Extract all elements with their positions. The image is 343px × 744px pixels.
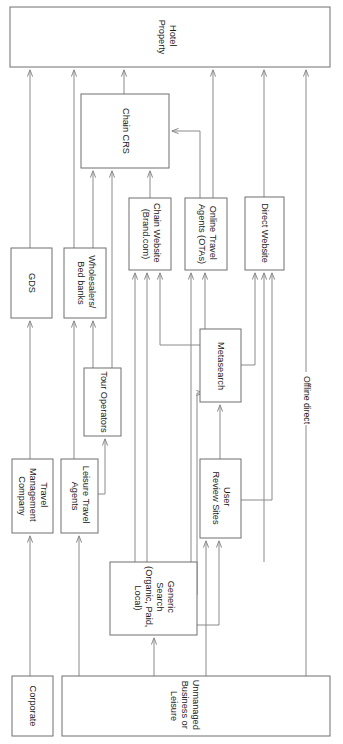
- node-generic-search-line-1: Search: [154, 582, 164, 611]
- node-user-review-line-1: Review Sites: [210, 471, 220, 525]
- node-chain-crs[interactable]: Chain CRS: [81, 94, 169, 168]
- svg-text:Chain CRS: Chain CRS: [121, 108, 131, 154]
- node-online-travel-agents-line-1: Agents (OTAs): [196, 204, 206, 264]
- flow-search-to-user-review: [197, 541, 219, 625]
- node-user-review-line-0: User: [221, 487, 231, 506]
- flow-lta-to-tour-operators: [98, 439, 105, 494]
- node-unmanaged-line-2: Leisure: [169, 691, 179, 721]
- distribution-flow-diagram: Hotel Property Chain CRS Chain Website (…: [0, 0, 343, 744]
- node-tour-operators[interactable]: Tour Operators: [84, 368, 121, 436]
- node-metasearch[interactable]: Metasearch: [200, 329, 241, 402]
- node-generic-search-line-0: Generic: [165, 581, 175, 614]
- node-gds-line-0: GDS: [27, 273, 37, 293]
- node-chain-website[interactable]: Chain Website (Brand.com): [129, 198, 171, 270]
- node-corporate-line-0: Corporate: [28, 686, 38, 727]
- svg-text:GDS: GDS: [27, 273, 37, 293]
- node-leisure-travel-agents[interactable]: Leisure Travel Agents: [61, 459, 98, 533]
- node-lta-line-1: Agents: [69, 482, 79, 511]
- svg-text:Chain Website (Brand.com: Chain Website (Brand.com): [140, 203, 161, 265]
- node-hotel-property[interactable]: Hotel Property: [10, 7, 330, 67]
- flow-otas-to-crs: [172, 131, 200, 198]
- flow-metasearch-to-chain-website: [160, 273, 200, 345]
- node-chain-website-line-1: (Brand.com): [140, 209, 150, 260]
- node-wholesalers-bed-banks[interactable]: Wholesalers/ Bed banks: [64, 248, 106, 318]
- node-travel-management-company[interactable]: Travel Management Company: [12, 459, 53, 533]
- node-tour-operators-line-0: Tour Operators: [99, 371, 109, 433]
- node-generic-search[interactable]: Generic Search (Organic, Paid, Local): [110, 562, 197, 635]
- node-unmanaged-line-1: Business or: [180, 681, 190, 729]
- node-online-travel-agents[interactable]: Online Travel Agents (OTAs): [185, 198, 227, 270]
- node-hotel-property-line-0: Hotel: [167, 25, 177, 46]
- node-direct-website[interactable]: Direct Website: [245, 197, 284, 270]
- node-chain-crs-line-0: Chain CRS: [121, 108, 131, 154]
- node-user-review-sites[interactable]: User Review Sites: [200, 459, 241, 538]
- node-tmc-line-0: Travel: [39, 482, 49, 507]
- node-unmanaged-line-0: Unmanaged: [191, 680, 201, 730]
- node-wholesalers-line-1: Bed banks: [75, 261, 85, 305]
- node-online-travel-agents-line-0: Online Travel: [207, 206, 217, 260]
- node-direct-website-line-0: Direct Website: [260, 203, 270, 263]
- node-wholesalers-line-0: Wholesalers/: [86, 255, 96, 309]
- edge-label-offline-direct: Offline direct: [302, 376, 312, 425]
- node-metasearch-line-0: Metasearch: [216, 342, 226, 390]
- svg-text:Tour Operators: Tour Operators: [99, 371, 109, 433]
- svg-text:Direct Website: Direct Website: [260, 203, 270, 263]
- svg-text:Corporate: Corporate: [28, 686, 38, 727]
- node-chain-website-line-0: Chain Website: [151, 203, 161, 263]
- svg-text:Wholesalers/ Bed banks: Wholesalers/ Bed banks: [75, 255, 96, 311]
- node-corporate[interactable]: Corporate: [12, 676, 53, 736]
- node-hotel-property-line-1: Property: [156, 20, 166, 55]
- node-lta-line-0: Leisure Travel: [80, 466, 90, 524]
- flow-user-review-to-direct: [241, 273, 272, 500]
- node-unmanaged-business-or-leisure[interactable]: Unmanaged Business or Leisure: [62, 676, 330, 736]
- node-gds[interactable]: GDS: [11, 248, 52, 318]
- svg-text:Metasearch: Metasearch: [216, 342, 226, 390]
- node-generic-search-line-2: (Organic, Paid,: [143, 566, 153, 627]
- svg-text:Online Travel Agents (OT: Online Travel Agents (OTAs): [196, 204, 217, 264]
- node-tmc-line-2: Company: [17, 476, 27, 516]
- flow-metasearch-to-direct: [241, 273, 255, 365]
- diagram-canvas: Hotel Property Chain CRS Chain Website (…: [0, 0, 343, 744]
- node-tmc-line-1: Management: [28, 468, 38, 522]
- node-generic-search-line-3: Local): [132, 585, 142, 610]
